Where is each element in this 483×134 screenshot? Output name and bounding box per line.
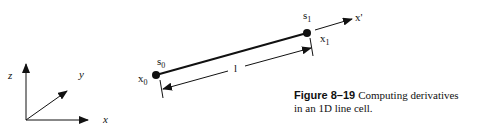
local-x-axis-arrow: [315, 19, 352, 30]
s1-label: s1: [303, 9, 311, 24]
figure-number: Figure 8–19: [294, 89, 355, 101]
length-label: l: [234, 62, 237, 74]
figure-caption: Figure 8–19Computing derivatives in an 1…: [294, 89, 483, 115]
point-x0-dot: [152, 71, 160, 79]
s0-label: s0: [157, 55, 165, 70]
dimension-arrow-right: [245, 48, 311, 66]
caption-line2: in an 1D line cell.: [294, 102, 373, 114]
coordinate-axes: z y x: [7, 64, 108, 125]
x0-label: x0: [138, 72, 148, 87]
x1-label: x1: [320, 32, 330, 47]
line-cell: x' s0 x0 s1 x1: [138, 9, 363, 87]
line-segment: [156, 33, 307, 75]
caption-line1: Computing derivatives: [358, 89, 459, 101]
tick-end: [310, 38, 313, 56]
z-axis-label: z: [7, 69, 13, 81]
tick-start: [160, 80, 163, 98]
y-axis-label: y: [78, 68, 84, 80]
local-x-axis-label: x': [355, 11, 363, 23]
y-axis-arrow: [26, 91, 67, 120]
x-axis-label: x: [102, 113, 108, 125]
dimension-arrow-left: [163, 71, 228, 89]
point-x1-dot: [303, 29, 311, 37]
